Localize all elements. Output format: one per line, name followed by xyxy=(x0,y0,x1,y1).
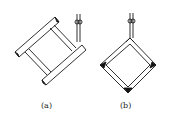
panel-a-frame xyxy=(15,17,86,85)
frame-a-left-strut-1 xyxy=(25,52,47,75)
diagram-canvas xyxy=(0,0,171,121)
frame-a-left-strut-2 xyxy=(29,49,51,72)
frame-a-bottom-bar xyxy=(42,45,86,85)
frame-a-top-bar xyxy=(15,17,59,57)
frame-b-inner xyxy=(106,44,150,87)
frame-a-corner-mark xyxy=(42,80,46,85)
frame-a-corner-mark xyxy=(15,52,19,57)
panel-a-hook xyxy=(75,14,82,42)
panel-b-frame xyxy=(100,38,156,93)
frame-a-corner-mark xyxy=(55,17,59,22)
frame-b-corner-mark xyxy=(150,62,156,68)
panel-b-hook xyxy=(128,13,135,38)
caption-b: (b) xyxy=(120,101,131,110)
caption-a: (a) xyxy=(41,101,52,110)
frame-a-right-strut-1 xyxy=(50,28,72,51)
frame-a-right-strut-2 xyxy=(54,25,76,48)
